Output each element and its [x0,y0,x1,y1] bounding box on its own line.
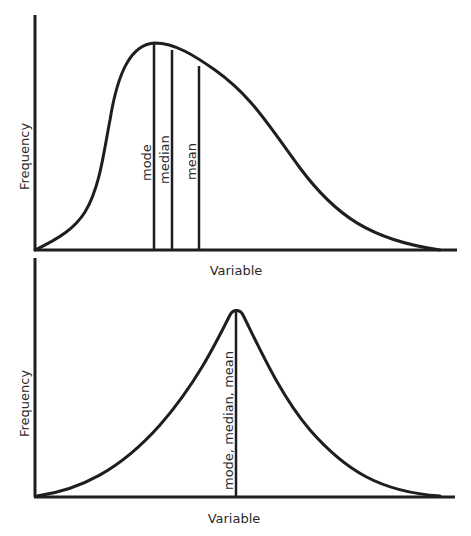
skewed-chart: mode median mean Frequency Variable [17,15,457,278]
symmetric-chart: mode, median, mean Frequency Variable [17,258,455,526]
x-axis-label: Variable [208,511,261,526]
mean-label: mean [184,143,199,180]
skewed-curve [35,43,440,250]
y-axis-label: Frequency [17,370,32,437]
symmetric-curve [37,311,440,497]
median-label: median [157,135,172,184]
x-axis-label: Variable [210,263,263,278]
mode-median-mean-label: mode, median, mean [221,351,236,490]
distribution-figure: mode median mean Frequency Variable mode… [0,0,471,536]
mode-label: mode [139,144,154,181]
y-axis-label: Frequency [17,123,32,190]
